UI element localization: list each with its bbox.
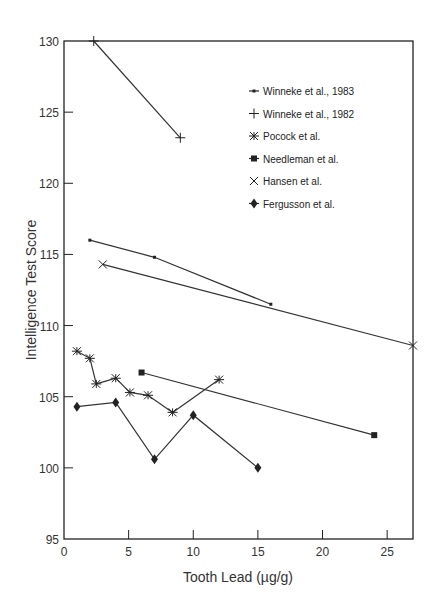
legend: Winneke et al., 1983Winneke et al., 1982… xyxy=(249,86,355,210)
y-tick-label: 105 xyxy=(39,391,59,405)
x-tick-label: 5 xyxy=(125,545,132,559)
x-tick-label: 0 xyxy=(61,545,68,559)
y-tick-label: 115 xyxy=(40,248,59,262)
legend-label: Needleman et al. xyxy=(263,154,339,165)
legend-label: Winneke et al., 1982 xyxy=(263,109,355,120)
y-tick-label: 95 xyxy=(46,533,60,547)
legend-label: Hansen et al. xyxy=(263,176,322,187)
plot-border xyxy=(64,41,413,539)
series-line-3 xyxy=(142,373,375,436)
y-tick-label: 100 xyxy=(39,462,59,476)
x-tick-label: 10 xyxy=(187,545,201,559)
legend-item: Winneke et al., 1982 xyxy=(249,109,355,120)
x-tick-label: 20 xyxy=(316,545,330,559)
series-lines xyxy=(77,41,413,468)
legend-label: Winneke et al., 1983 xyxy=(263,86,355,97)
series-markers-0 xyxy=(88,239,272,306)
x-tick-label: 25 xyxy=(380,545,394,559)
legend-label: Pocock et al. xyxy=(263,131,320,142)
series-line-1 xyxy=(94,41,181,138)
legend-item: Hansen et al. xyxy=(250,176,322,187)
legend-item: Fergusson et al. xyxy=(249,199,335,210)
series-markers-2 xyxy=(72,347,224,416)
legend-label: Fergusson et al. xyxy=(263,199,335,210)
plot-frame xyxy=(64,41,413,539)
series-line-0 xyxy=(90,240,271,304)
legend-item: Winneke et al., 1983 xyxy=(249,86,355,97)
line-chart: 051015202595100105110115120125130 Winnek… xyxy=(0,0,436,616)
legend-item: Needleman et al. xyxy=(249,154,339,165)
y-tick-label: 130 xyxy=(39,35,59,49)
y-axis-title: Intelligence Test Score xyxy=(23,219,39,360)
y-tick-label: 110 xyxy=(40,320,59,334)
legend-item: Pocock et al. xyxy=(249,131,320,142)
series-line-5 xyxy=(77,402,258,468)
x-tick-label: 15 xyxy=(251,545,265,559)
x-axis-title: Tooth Lead (µg/g) xyxy=(183,569,293,585)
y-tick-label: 120 xyxy=(39,177,59,191)
series-markers xyxy=(72,36,417,473)
series-line-4 xyxy=(103,264,413,345)
y-tick-label: 125 xyxy=(39,106,59,120)
